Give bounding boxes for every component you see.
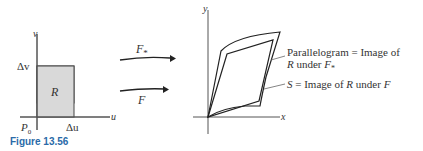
f-star-label: F* [136, 42, 148, 58]
origin-label: P0 [21, 121, 31, 136]
s-annotation: S = Image of R under F [287, 78, 390, 90]
f-label: F [138, 93, 145, 108]
delta-v-label: Δv [17, 60, 30, 72]
region-s [208, 32, 280, 117]
parallelogram [208, 40, 273, 117]
diagram-canvas [0, 0, 423, 151]
parallelogram-annotation: Parallelogram = Image of R under F* [287, 46, 400, 73]
figure: v u Δv Δu R P0 F* F y x Parallelogram = … [0, 0, 423, 151]
x-axis-label: x [281, 111, 285, 122]
arrow-f [120, 89, 165, 91]
v-axis-label: v [33, 28, 37, 39]
figure-caption: Figure 13.56 [10, 136, 68, 147]
region-r-label: R [51, 85, 58, 100]
y-axis-label: y [203, 3, 207, 14]
u-axis-label: u [111, 111, 116, 122]
delta-u-label: Δu [66, 121, 79, 133]
